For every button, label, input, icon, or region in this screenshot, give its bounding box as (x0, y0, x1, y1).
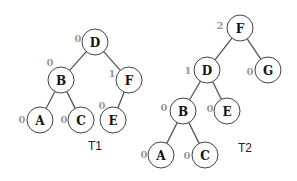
node-T1-D: D0 (75, 29, 108, 55)
edge-T1-D-B (70, 52, 87, 71)
node-label: E (108, 114, 117, 128)
balance-factor: 0 (61, 114, 68, 125)
edge-T2-B-A (167, 123, 177, 144)
balance-factor: 0 (247, 66, 254, 77)
node-label: B (56, 74, 66, 88)
node-T1-F: F1 (109, 67, 142, 93)
edge-T1-B-A (46, 92, 55, 109)
tree-title-T1: T1 (88, 139, 102, 153)
edge-T1-B-C (67, 92, 75, 109)
balance-factor: 0 (161, 102, 168, 113)
node-label: C (200, 149, 210, 163)
avl-trees-diagram: D0B0F1A0C0E0F2D1G0B0E0A0C0 T1T2 (0, 0, 297, 181)
node-label: B (178, 105, 188, 119)
balance-factor: 0 (207, 103, 214, 114)
edge-T2-B-C (189, 123, 199, 144)
node-T2-B: B0 (161, 98, 196, 124)
node-T1-C: C0 (61, 107, 94, 133)
node-label: C (76, 114, 86, 128)
node-label: F (236, 22, 245, 36)
edge-T2-D-B (190, 81, 201, 100)
balance-factor: 1 (185, 65, 192, 76)
node-T1-A: A0 (19, 107, 53, 133)
balance-factor: 1 (109, 68, 116, 79)
balance-factor: 2 (217, 20, 224, 31)
node-T2-F: F2 (217, 15, 253, 41)
node-label: D (202, 64, 212, 78)
edge-T2-F-G (247, 39, 261, 59)
balance-factor: 0 (184, 150, 191, 161)
node-T2-G: G0 (247, 57, 281, 83)
node-label: D (90, 36, 100, 50)
balance-factor: 0 (75, 33, 82, 44)
edge-T2-F-D (215, 38, 232, 60)
edge-T2-D-E (213, 82, 222, 100)
node-label: G (263, 64, 273, 78)
edge-T1-F-E (118, 92, 124, 108)
balance-factor: 0 (141, 149, 148, 160)
node-T1-E: E0 (99, 100, 126, 134)
balance-factor: 0 (19, 114, 26, 125)
balance-factor: 0 (99, 100, 106, 111)
node-T2-C: C0 (184, 142, 218, 168)
balance-factor: 0 (47, 57, 54, 68)
node-label: A (155, 149, 166, 163)
node-T2-A: A0 (141, 142, 174, 168)
node-label: A (34, 114, 45, 128)
tree-title-T2: T2 (238, 141, 252, 155)
node-T1-B: B0 (47, 57, 74, 94)
node-T2-D: D1 (185, 57, 220, 83)
node-label: F (125, 74, 134, 88)
node-label: E (222, 105, 231, 119)
node-T2-E: E0 (207, 98, 240, 124)
